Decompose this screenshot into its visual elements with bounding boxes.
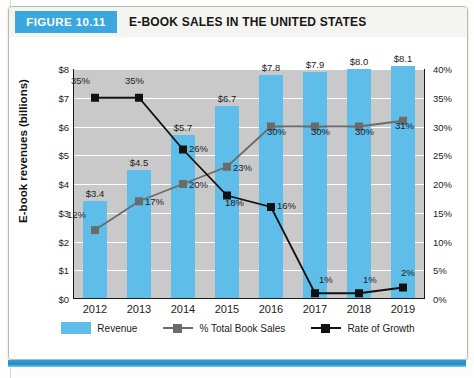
y-tick-right: 35% bbox=[433, 92, 452, 103]
marker-2018 bbox=[355, 289, 363, 297]
point-label-2016: 16% bbox=[277, 200, 311, 211]
point-label-2018: 1% bbox=[363, 274, 397, 285]
marker-2012 bbox=[91, 226, 99, 234]
legend-swatch-bar bbox=[61, 322, 91, 334]
point-label-2015: 18% bbox=[225, 197, 259, 208]
point-label-2017: 1% bbox=[319, 274, 353, 285]
bar-label-2013: $4.5 bbox=[119, 157, 159, 168]
x-tick-2013: 2013 bbox=[117, 303, 161, 315]
legend-item[interactable]: Revenue bbox=[61, 322, 137, 334]
point-label-2019: 2% bbox=[401, 267, 435, 278]
bar-label-2019: $8.1 bbox=[383, 53, 423, 64]
bar-label-2017: $7.9 bbox=[295, 59, 335, 70]
legend-item[interactable]: Rate of Growth bbox=[311, 323, 414, 334]
point-label-2014: 20% bbox=[189, 179, 223, 190]
marker-2012 bbox=[91, 94, 99, 102]
marker-2014 bbox=[179, 146, 187, 154]
bar-label-2016: $7.8 bbox=[251, 62, 291, 73]
series-overlay bbox=[73, 69, 425, 299]
legend-label: Rate of Growth bbox=[347, 323, 414, 334]
point-label-2012: 35% bbox=[71, 75, 105, 86]
marker-2013 bbox=[135, 94, 143, 102]
legend-swatch-line bbox=[163, 323, 193, 333]
page-bottom-band bbox=[8, 360, 466, 367]
figure-page: FIGURE 10.11 E-BOOK SALES IN THE UNITED … bbox=[0, 0, 474, 378]
legend-item[interactable]: % Total Book Sales bbox=[163, 323, 285, 334]
y-tick-right: 20% bbox=[433, 179, 452, 190]
y-tick-right: 0% bbox=[433, 294, 447, 305]
legend-label: Revenue bbox=[97, 323, 137, 334]
legend-swatch-line bbox=[311, 323, 341, 333]
y-axis-right: 0%5%10%15%20%25%30%35%40% bbox=[429, 69, 468, 299]
gridline bbox=[73, 299, 425, 300]
marker-2019 bbox=[399, 284, 407, 292]
legend-label: % Total Book Sales bbox=[199, 323, 285, 334]
figure-title-label: E-BOOK SALES IN THE UNITED STATES bbox=[129, 15, 367, 29]
x-tick-2014: 2014 bbox=[161, 303, 205, 315]
figure-card: FIGURE 10.11 E-BOOK SALES IN THE UNITED … bbox=[8, 6, 468, 360]
marker-2017 bbox=[311, 289, 319, 297]
figure-header: FIGURE 10.11 E-BOOK SALES IN THE UNITED … bbox=[9, 7, 467, 38]
y-tick-right: 30% bbox=[433, 121, 452, 132]
y-tick-right: 25% bbox=[433, 150, 452, 161]
chart-legend: Revenue% Total Book SalesRate of Growth bbox=[9, 315, 467, 341]
marker-2013 bbox=[135, 197, 143, 205]
point-label-2018: 30% bbox=[355, 126, 389, 137]
bar-label-2015: $6.7 bbox=[207, 93, 247, 104]
x-tick-2016: 2016 bbox=[249, 303, 293, 315]
y-tick-right: 15% bbox=[433, 207, 452, 218]
bar-label-2012: $3.4 bbox=[75, 188, 115, 199]
marker-2014 bbox=[179, 180, 187, 188]
y-tick-right: 40% bbox=[433, 64, 452, 75]
point-label-2014: 26% bbox=[189, 143, 223, 154]
bar-label-2018: $8.0 bbox=[339, 56, 379, 67]
figure-number-label: FIGURE 10.11 bbox=[26, 16, 106, 28]
point-label-2019: 31% bbox=[395, 120, 429, 131]
x-tick-2019: 2019 bbox=[381, 303, 425, 315]
point-label-2013: 35% bbox=[125, 75, 159, 86]
line--total-book-sales bbox=[95, 121, 403, 230]
point-label-2017: 30% bbox=[311, 126, 345, 137]
figure-number-badge: FIGURE 10.11 bbox=[15, 11, 117, 33]
marker-2016 bbox=[267, 203, 275, 211]
point-label-2015: 23% bbox=[233, 162, 267, 173]
x-tick-2012: 2012 bbox=[73, 303, 117, 315]
point-label-2012: 12% bbox=[67, 209, 101, 220]
marker-2015 bbox=[223, 163, 231, 171]
y-tick-right: 10% bbox=[433, 236, 452, 247]
y-axis-title: E-book revenues (billions) bbox=[17, 51, 29, 251]
y-tick-right: 5% bbox=[433, 265, 447, 276]
x-tick-2015: 2015 bbox=[205, 303, 249, 315]
y-tick-left: $1 bbox=[17, 265, 69, 276]
chart-area: $0$1$2$3$4$5$6$7$8 0%5%10%15%20%25%30%35… bbox=[9, 37, 467, 359]
point-label-2016: 30% bbox=[267, 126, 301, 137]
figure-title: E-BOOK SALES IN THE UNITED STATES bbox=[129, 11, 367, 33]
y-tick-left: $0 bbox=[17, 294, 69, 305]
x-tick-2018: 2018 bbox=[337, 303, 381, 315]
point-label-2013: 17% bbox=[145, 196, 179, 207]
bar-label-2014: $5.7 bbox=[163, 122, 203, 133]
x-tick-2017: 2017 bbox=[293, 303, 337, 315]
